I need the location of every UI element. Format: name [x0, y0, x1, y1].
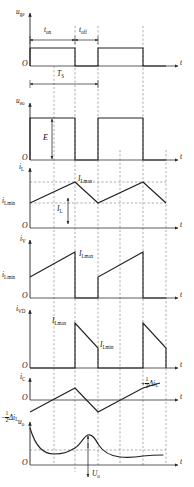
t-axis-label-panel2: t: [180, 153, 182, 160]
t-on-label: ton: [44, 26, 51, 33]
t-axis-label-panel3: t: [180, 221, 182, 228]
origin-label-panel7: O: [22, 459, 28, 467]
t-off-label: toff: [79, 26, 87, 33]
axis-label-i-VD: iVD: [16, 305, 25, 312]
origin-label-panel6: O: [22, 394, 28, 402]
E-amplitude-label: E: [43, 134, 48, 142]
boost-converter-waveform-figure: [0, 0, 194, 487]
origin-label-panel1: O: [22, 60, 28, 68]
axis-label-u-eo: ueo: [16, 97, 25, 104]
capacitor-ripple-lower-label: −12ΔiL: [1, 411, 18, 423]
I-Lmin-label-panel5: ILmin: [100, 341, 114, 348]
I-Lmax-label-panel4: ILmax: [79, 250, 93, 257]
i-Lmin-label-panel3: iLmin: [2, 197, 15, 204]
i-Lmin-label-panel4: iLmin: [2, 271, 15, 278]
t-axis-label-panel5: t: [180, 361, 182, 368]
origin-label-panel2: O: [22, 154, 28, 162]
t-axis-label-panel1: t: [180, 59, 182, 66]
capacitor-ripple-upper-label: +12ΔiL: [141, 377, 158, 389]
axis-label-i-L: iL: [19, 163, 24, 170]
figure-background: [0, 0, 194, 487]
axis-label-i-V: iV: [20, 235, 26, 242]
I-Lmax-label-panel5: ILmax: [52, 317, 66, 324]
U-o-label: Uo: [92, 470, 100, 477]
axis-label-u-ge: uge: [16, 8, 25, 15]
axis-label-u-o: uo: [18, 418, 24, 425]
period-label: TS: [57, 70, 64, 77]
I-L-ripple-label: IL: [57, 205, 63, 212]
axis-label-i-C: iC: [20, 373, 25, 380]
t-axis-label-panel4: t: [180, 291, 182, 298]
origin-label-panel3: O: [22, 222, 28, 230]
origin-label-panel4: O: [22, 292, 28, 300]
t-axis-label-panel7: t: [180, 458, 182, 465]
t-axis-label-panel6: t: [180, 393, 182, 400]
origin-label-panel5: O: [22, 362, 28, 370]
I-Lmax-label-panel3: ILmax: [78, 175, 92, 182]
